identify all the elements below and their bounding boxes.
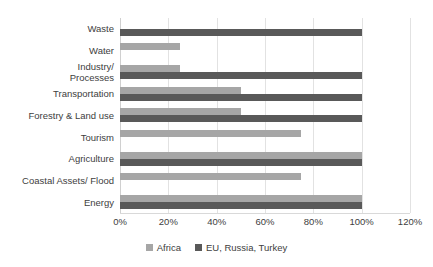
- bar-group: [120, 61, 410, 83]
- bar-chart: WasteWaterIndustry/ ProcessesTransportat…: [0, 0, 433, 267]
- legend-swatch-icon: [195, 244, 202, 251]
- gridline-120pct: [410, 18, 411, 213]
- category-label: Water: [0, 45, 114, 56]
- bar: [120, 29, 362, 36]
- x-tick-label: 40%: [207, 216, 226, 227]
- bar: [120, 43, 180, 50]
- category-label: Agriculture: [0, 153, 114, 164]
- bar: [120, 72, 362, 79]
- x-tick-label: 80%: [304, 216, 323, 227]
- bar-series-group: [120, 18, 410, 213]
- bar: [120, 195, 362, 202]
- legend-swatch-icon: [146, 244, 153, 251]
- bar: [120, 173, 301, 180]
- chart-legend: AfricaEU, Russia, Turkey: [0, 242, 433, 253]
- category-label: Transportation: [0, 88, 114, 99]
- bar: [120, 94, 362, 101]
- category-label: Waste: [0, 23, 114, 34]
- category-label: Forestry & Land use: [0, 110, 114, 121]
- legend-item[interactable]: Africa: [146, 242, 181, 253]
- x-tick-label: 0%: [113, 216, 127, 227]
- x-axis-line: [120, 213, 410, 214]
- x-tick-label: 100%: [350, 216, 374, 227]
- bar-group: [120, 83, 410, 105]
- bar: [120, 159, 362, 166]
- bar: [120, 152, 362, 159]
- category-label: Coastal Assets/ Flood: [0, 175, 114, 186]
- x-tick-label: 60%: [255, 216, 274, 227]
- bar: [120, 65, 180, 72]
- bar-group: [120, 105, 410, 127]
- bar: [120, 115, 362, 122]
- x-tick-label: 120%: [398, 216, 422, 227]
- legend-label: EU, Russia, Turkey: [206, 242, 287, 253]
- bar: [120, 108, 241, 115]
- category-label: Industry/ Processes: [0, 61, 114, 83]
- category-label: Energy: [0, 197, 114, 208]
- bar-group: [120, 126, 410, 148]
- legend-item[interactable]: EU, Russia, Turkey: [195, 242, 287, 253]
- bar-group: [120, 40, 410, 62]
- bar-group: [120, 18, 410, 40]
- plot-area: [120, 18, 410, 213]
- bar-group: [120, 148, 410, 170]
- bar: [120, 202, 362, 209]
- category-label: Tourism: [0, 132, 114, 143]
- category-axis-labels: WasteWaterIndustry/ ProcessesTransportat…: [0, 18, 114, 213]
- x-axis-tick-labels: 0%20%40%60%80%100%120%: [120, 216, 410, 232]
- bar-group: [120, 191, 410, 213]
- x-tick-label: 20%: [159, 216, 178, 227]
- bar: [120, 87, 241, 94]
- bar-group: [120, 170, 410, 192]
- legend-label: Africa: [157, 242, 181, 253]
- bar: [120, 130, 301, 137]
